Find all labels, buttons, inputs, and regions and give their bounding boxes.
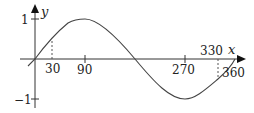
- y-tick-label-1: 1: [21, 13, 29, 27]
- x-tick-label-330: 330: [200, 44, 223, 58]
- y-axis-label: y: [40, 4, 49, 19]
- x-axis-label: x: [228, 42, 236, 57]
- y-tick-label-neg1: −1: [14, 93, 32, 107]
- x-tick-label-270: 270: [172, 63, 195, 77]
- x-axis-arrow-icon: [237, 55, 246, 63]
- y-axis-arrow-icon: [31, 4, 39, 13]
- x-tick-label-30: 30: [45, 62, 60, 76]
- x-tick-label-90: 90: [77, 63, 92, 77]
- x-tick-label-360: 360: [222, 66, 245, 80]
- sine-chart: y x 1 −1 30 90 270 330 360: [0, 0, 254, 113]
